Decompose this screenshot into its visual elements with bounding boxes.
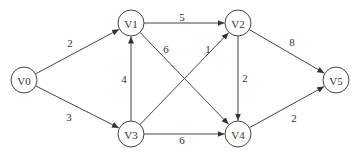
edge-weight-label: 4	[121, 73, 127, 85]
edge-weight-label: 8	[289, 36, 295, 48]
node-v3: V3	[118, 121, 144, 147]
edge-weight-label: 3	[66, 111, 72, 123]
node-label: V1	[124, 18, 137, 30]
node-v2: V2	[225, 10, 251, 36]
node-label: V3	[124, 129, 138, 141]
edge-weight-label: 6	[163, 43, 169, 55]
node-v5: V5	[323, 67, 349, 93]
edge-labels-layer: 2356416282	[66, 11, 297, 146]
edge-v0-v1	[36, 29, 120, 74]
edge-v0-v3	[36, 86, 119, 128]
edge-weight-label: 2	[67, 37, 73, 49]
node-v0: V0	[11, 67, 37, 93]
edge-v4-v5	[249, 87, 324, 128]
nodes-layer: V0V1V2V3V4V5	[11, 10, 349, 147]
edge-weight-label: 6	[179, 134, 185, 146]
node-v4: V4	[225, 121, 251, 147]
edge-weight-label: 2	[242, 72, 248, 84]
node-v1: V1	[118, 10, 144, 36]
node-label: V0	[17, 75, 31, 87]
graph-diagram: 2356416282 V0V1V2V3V4V5	[0, 0, 362, 155]
edges-layer	[36, 23, 325, 134]
edge-weight-label: 1	[205, 43, 211, 55]
edge-weight-label: 2	[291, 112, 297, 124]
node-label: V2	[231, 18, 244, 30]
node-label: V5	[329, 75, 343, 87]
edge-v2-v5	[249, 30, 324, 74]
edge-weight-label: 5	[179, 11, 185, 23]
node-label: V4	[231, 129, 245, 141]
